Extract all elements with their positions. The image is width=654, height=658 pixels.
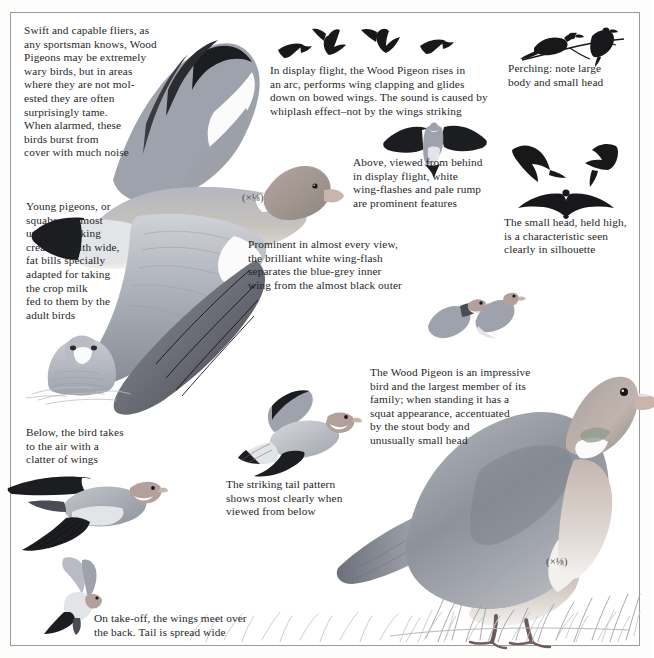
caption-perching: Perching: note large body and small head [508, 62, 638, 89]
caption-swift-fliers: Swift and capable fliers, as any sportsm… [24, 24, 224, 160]
caption-impressive-bird: The Wood Pigeon is an impressive bird an… [370, 366, 585, 448]
caption-tail-pattern: The striking tail pattern shows most cle… [226, 478, 406, 519]
caption-wing-flash: Prominent in almost every view, the bril… [248, 238, 458, 292]
caption-small-head-silhouette: The small head, held high, is a characte… [504, 216, 654, 257]
figure-squab-nestling [26, 318, 136, 408]
caption-young-squabs: Young pigeons, or squabs, are most unusu… [26, 200, 146, 322]
figure-taking-off-left [8, 466, 168, 558]
caption-display-flight: In display flight, the Wood Pigeon rises… [270, 64, 520, 118]
scale-mark-flying-bird: (×⅛) [242, 192, 264, 203]
page-heading-clip: Wood Pigeon [0, 0, 652, 11]
caption-takes-to-air: Below, the bird takes to the air with a … [26, 426, 166, 467]
scale-mark-standing-bird: (×⅛) [546, 556, 568, 567]
caption-take-off: On take-off, the wings meet over the bac… [94, 612, 324, 639]
caption-above-behind: Above, viewed from behind in display fli… [353, 156, 533, 210]
